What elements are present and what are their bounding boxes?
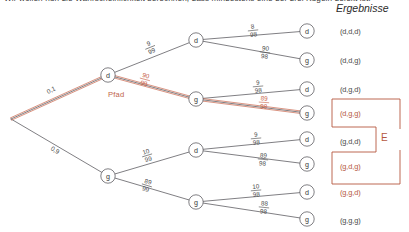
tree-node: g [300, 53, 314, 67]
tree-node-label: d [194, 146, 198, 155]
fraction-denominator: 98 [255, 86, 263, 94]
tree-node-label: g [305, 160, 309, 169]
tree-nodes-layer: dgdgdgdgdgdgdg [101, 24, 314, 226]
tree-edge [203, 140, 300, 150]
result-outcome: (g,d,g) [340, 162, 361, 171]
fraction-numerator: 88 [261, 199, 269, 207]
fraction-numerator: 8 [250, 22, 255, 29]
tree-node: g [189, 195, 203, 209]
tree-node-label: d [305, 135, 309, 144]
tree-edge [115, 77, 189, 97]
highlighted-path-rail [12, 79, 102, 120]
edge-probability-label: 1098 [250, 182, 262, 198]
edge-probability-label: 8999 [140, 176, 154, 193]
tree-node-label: g [305, 215, 309, 224]
tree-node-label: g [305, 109, 309, 118]
tree-node: d [300, 82, 314, 96]
edge-probability-label: 8998 [258, 94, 269, 110]
fraction-denominator: 99 [141, 185, 150, 194]
probability-value: 0,9 [50, 145, 62, 156]
tree-node: d [300, 185, 314, 199]
tree-node: d [101, 68, 115, 82]
tree-node-label: g [194, 95, 198, 104]
fraction-denominator: 98 [259, 159, 267, 167]
fraction-numerator: 89 [260, 151, 268, 159]
tree-edge [11, 78, 101, 119]
fraction-denominator: 99 [147, 46, 157, 55]
fraction-denominator: 98 [260, 102, 268, 110]
tree-node-label: g [194, 198, 198, 207]
fraction-numerator: 9 [146, 39, 152, 47]
result-outcome: (g,g,d) [340, 188, 361, 197]
fraction-denominator: 98 [250, 30, 258, 38]
edge-probability-label: 998 [252, 78, 264, 94]
tree-node: d [300, 132, 314, 146]
fraction-denominator: 98 [253, 138, 261, 146]
tree-edge [115, 178, 189, 200]
fraction-numerator: 90 [262, 44, 270, 52]
path-annotation-label: Pfad [108, 90, 124, 99]
edge-probability-label: 1099 [140, 146, 154, 163]
fraction-denominator: 98 [253, 190, 261, 198]
results-column-title: Ergebnisse [336, 2, 389, 14]
tree-node: g [101, 169, 115, 183]
edge-probability-labels-layer: 0,10,99999099109989998989098998899899889… [45, 22, 271, 215]
event-set-label: E [381, 132, 388, 143]
tree-node-label: d [106, 71, 110, 80]
result-outcome: (d,d,g) [340, 56, 361, 65]
edge-probability-label: 0,9 [50, 145, 62, 156]
result-outcome: (d,g,g) [340, 109, 361, 118]
tree-edge [203, 100, 300, 112]
tree-edge [203, 151, 300, 163]
tree-node: d [300, 24, 314, 38]
tree-node-label: d [194, 36, 198, 45]
tree-node: d [189, 143, 203, 157]
highlighted-path-rail [203, 99, 300, 111]
tree-node-label: g [106, 172, 110, 181]
tree-edge [115, 152, 189, 174]
tree-node-label: g [305, 56, 309, 65]
tree-node: g [300, 106, 314, 120]
tree-node-label: d [305, 27, 309, 36]
tree-node: g [189, 92, 203, 106]
fraction-numerator: 89 [261, 94, 269, 102]
result-outcome: (g,d,d) [340, 137, 361, 146]
tree-node: g [300, 212, 314, 226]
tree-node: d [189, 33, 203, 47]
fraction-numerator: 9 [256, 78, 261, 85]
fraction-denominator: 98 [261, 52, 269, 60]
fraction-denominator: 98 [260, 207, 268, 215]
highlighted-path-rail [115, 76, 189, 96]
result-outcome: (d,d,d) [340, 27, 361, 36]
fraction-denominator: 99 [144, 154, 153, 163]
fraction-numerator: 10 [252, 182, 260, 190]
highlighted-path-rail [115, 78, 189, 98]
edge-probability-label: 999 [142, 38, 157, 56]
tree-node: g [300, 157, 314, 171]
tree-edge [203, 193, 300, 202]
result-outcome: (d,g,d) [340, 85, 361, 94]
highlighted-path-rail [10, 77, 100, 118]
tree-node-label: d [305, 188, 309, 197]
tree-edge [203, 41, 300, 58]
tree-diagram-stage: Wir wollen nun die Wahrscheinlichkeit be… [0, 0, 409, 232]
tree-edge [203, 90, 300, 99]
highlighted-path-rail [203, 101, 300, 113]
edge-probability-label: 0,1 [45, 84, 56, 94]
result-outcome: (g,g,g) [340, 216, 361, 225]
tree-edge [203, 203, 300, 218]
probability-value: 0,1 [45, 84, 56, 94]
tree-node-label: d [305, 85, 309, 94]
edge-probability-label: 9098 [259, 44, 271, 60]
fraction-numerator: 9 [254, 130, 259, 137]
